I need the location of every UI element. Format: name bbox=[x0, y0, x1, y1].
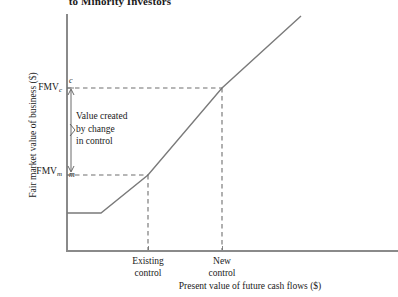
x-tick-label-existing-line2: control bbox=[135, 268, 162, 278]
y-axis-line bbox=[66, 14, 68, 251]
x-tick-label-new-control: New control bbox=[182, 256, 262, 279]
annotation-line-1: Value created bbox=[76, 111, 127, 121]
y-tick-subscript-fmv-m: m bbox=[57, 170, 62, 178]
x-axis-title: Present value of future cash flows ($) bbox=[110, 281, 390, 291]
y-tick-subscript-fmv-c: c bbox=[59, 86, 62, 94]
plot-overlay bbox=[0, 0, 398, 297]
y-axis-title: Fair market value of business ($) bbox=[28, 40, 38, 230]
x-tick-label-existing-line1: Existing bbox=[132, 256, 164, 266]
x-tick-label-new-line2: control bbox=[209, 268, 236, 278]
annotation-line-3: in control bbox=[76, 136, 113, 146]
bracket-arrow-up-icon bbox=[68, 89, 74, 95]
x-tick-label-existing-control: Existing control bbox=[108, 256, 188, 279]
x-tick-mark-existing-control bbox=[148, 246, 149, 250]
y-tick-label-fmv-c: FMVc bbox=[10, 82, 62, 94]
y-tick-base-fmv-m: FMV bbox=[36, 166, 57, 176]
annotation-pointer-icon bbox=[70, 124, 75, 136]
x-tick-mark-new-control bbox=[222, 246, 223, 250]
annotation-value-created: Value created by change in control bbox=[76, 110, 127, 148]
axis-marker-m: m bbox=[69, 170, 75, 179]
y-tick-label-fmv-m: FMVm bbox=[10, 166, 62, 178]
annotation-line-2: by change bbox=[76, 124, 115, 134]
x-axis-line bbox=[66, 250, 398, 252]
axis-marker-c: c bbox=[69, 76, 73, 85]
figure-title: to Minority Investors bbox=[0, 0, 240, 8]
y-tick-base-fmv-c: FMV bbox=[38, 82, 59, 92]
figure-container: to Minority Investors Fair market value … bbox=[0, 0, 398, 297]
x-tick-label-new-line1: New bbox=[213, 256, 231, 266]
